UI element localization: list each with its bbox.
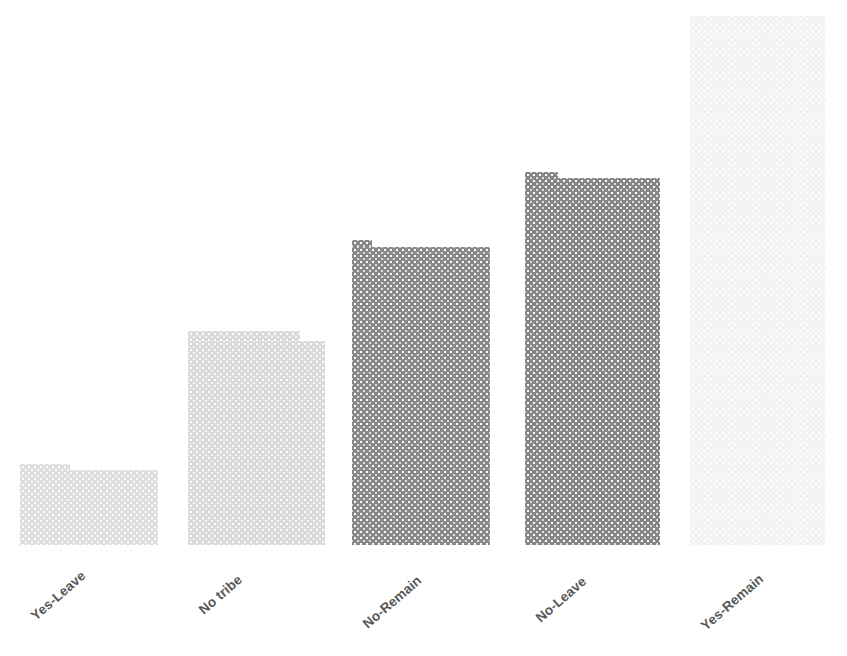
bar-body-no-leave [525, 178, 660, 545]
bar-chart: Yes-Leave No tribe No-Remain No-Leave Ye… [0, 0, 847, 656]
bar-body-no-tribe [188, 341, 325, 545]
bar-no-remain[interactable] [352, 240, 490, 545]
bar-body-yes-remain [690, 16, 825, 545]
bar-yes-leave[interactable] [20, 464, 158, 545]
bar-body-no-remain [352, 247, 490, 545]
bar-body-yes-leave [20, 470, 158, 545]
tick-label-no-leave: No-Leave [533, 574, 589, 626]
plot-area: Yes-Leave No tribe No-Remain No-Leave Ye… [0, 0, 847, 656]
bar-no-tribe[interactable] [188, 331, 325, 545]
tick-label-no-tribe: No tribe [196, 572, 245, 617]
bar-yes-remain[interactable] [690, 16, 825, 545]
tick-label-no-remain: No-Remain [360, 573, 424, 632]
tick-label-yes-remain: Yes-Remain [698, 571, 766, 633]
bar-no-leave[interactable] [525, 172, 660, 545]
tick-label-yes-leave: Yes-Leave [28, 568, 88, 623]
